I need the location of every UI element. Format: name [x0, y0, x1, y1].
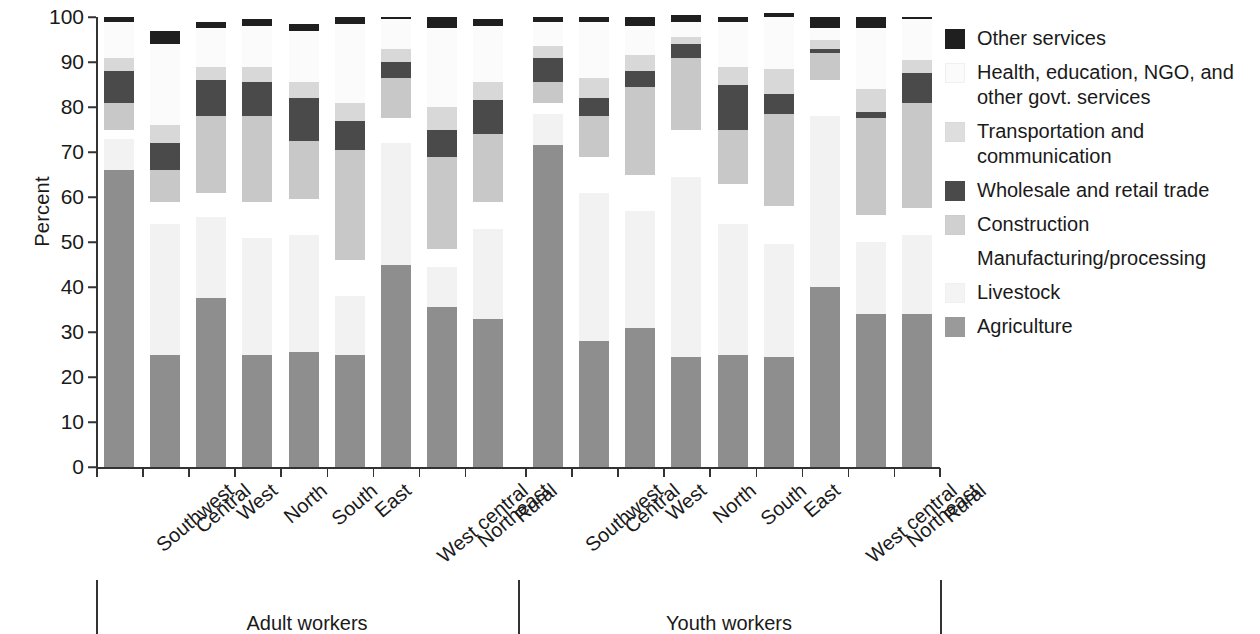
x-axis-tick-mark	[373, 468, 375, 477]
y-axis-tick-label: 0	[18, 455, 84, 479]
bar-segment	[104, 58, 134, 72]
stacked-bar	[579, 17, 609, 467]
legend-item: Agriculture	[945, 314, 1255, 339]
bar-segment	[335, 103, 365, 121]
x-axis-tick-mark	[234, 468, 236, 477]
group-label: Adult workers	[246, 612, 367, 634]
bar-segment	[196, 217, 226, 298]
y-axis-tick-label: 40	[18, 275, 84, 299]
bar-segment	[473, 229, 503, 319]
x-axis-tick-mark	[525, 468, 527, 477]
bar-segment	[104, 170, 134, 467]
bar-segment	[381, 17, 411, 19]
bar-segment	[335, 296, 365, 355]
x-axis-tick-mark	[709, 468, 711, 477]
stacked-bar	[104, 17, 134, 467]
bar-segment	[427, 249, 457, 267]
bar-segment	[473, 134, 503, 202]
group-label: Youth workers	[666, 612, 792, 634]
bar-segment	[718, 224, 748, 355]
bar-segment	[764, 17, 794, 69]
bar-segment	[104, 139, 134, 171]
bar-segment	[671, 44, 701, 58]
stacked-bar	[381, 17, 411, 467]
bar-segment	[902, 19, 932, 60]
bar-segment	[533, 114, 563, 146]
y-axis-tick-mark	[88, 376, 96, 378]
bar-segment	[625, 328, 655, 468]
x-axis-tick-mark	[465, 468, 467, 477]
bar-segment	[242, 116, 272, 202]
bar-segment	[579, 157, 609, 193]
bar-segment	[289, 352, 319, 467]
stacked-bar	[196, 17, 226, 467]
legend-swatch-icon	[945, 122, 965, 142]
x-axis-tick-label: East	[370, 479, 415, 522]
bar-segment	[196, 80, 226, 116]
bar-segment	[718, 67, 748, 85]
bar-segment	[473, 202, 503, 229]
y-axis-tick-label: 80	[18, 95, 84, 119]
bar-segment	[810, 53, 840, 80]
bar-segment	[764, 357, 794, 467]
stacked-bar	[718, 17, 748, 467]
bar-segment	[104, 17, 134, 22]
bar-segment	[902, 314, 932, 467]
bar-segment	[533, 22, 563, 47]
stacked-bar	[902, 17, 932, 467]
y-axis-tick-label: 10	[18, 410, 84, 434]
bar-segment	[718, 355, 748, 468]
stacked-bar	[427, 17, 457, 467]
legend-label: Wholesale and retail trade	[977, 178, 1209, 203]
bar-segment	[150, 143, 180, 170]
y-axis-tick-mark	[88, 241, 96, 243]
legend-swatch-icon	[945, 215, 965, 235]
bar-segment	[579, 193, 609, 342]
legend-item: Wholesale and retail trade	[945, 178, 1255, 203]
bar-segment	[196, 67, 226, 81]
bar-segment	[473, 82, 503, 100]
bar-segment	[764, 206, 794, 244]
bar-segment	[473, 26, 503, 82]
y-axis-tick-mark	[88, 151, 96, 153]
bar-segment	[150, 355, 180, 468]
bar-segment	[289, 141, 319, 200]
bar-segment	[196, 193, 226, 218]
legend-item: Livestock	[945, 280, 1255, 305]
bar-segment	[427, 28, 457, 107]
bar-segment	[335, 121, 365, 150]
bar-segment	[150, 31, 180, 45]
stacked-bar	[533, 17, 563, 467]
bar-segment	[335, 150, 365, 260]
stacked-bar	[764, 17, 794, 467]
y-axis-tick-label: 100	[18, 5, 84, 29]
x-axis-tick-mark	[96, 468, 98, 477]
bar-segment	[533, 46, 563, 57]
legend-label: Construction	[977, 212, 1089, 237]
x-axis-tick-mark	[142, 468, 144, 477]
bar-segment	[902, 103, 932, 209]
bar-segment	[150, 44, 180, 125]
bar-segment	[242, 26, 272, 67]
bar-segment	[196, 298, 226, 467]
bar-segment	[533, 17, 563, 22]
y-axis-tick-mark	[88, 466, 96, 468]
bar-segment	[150, 202, 180, 225]
bar-segment	[150, 224, 180, 355]
legend-swatch-icon	[945, 283, 965, 303]
bar-segment	[671, 15, 701, 22]
bar-segment	[764, 94, 794, 114]
bar-segment	[533, 145, 563, 467]
stacked-bar-chart: Percent 0102030405060708090100SouthwestC…	[0, 0, 1260, 634]
bar-segment	[856, 215, 886, 242]
y-axis-tick-mark	[88, 106, 96, 108]
bar-segment	[764, 114, 794, 206]
bar-segment	[381, 49, 411, 63]
y-axis-tick-label: 30	[18, 320, 84, 344]
x-axis-tick-mark	[663, 468, 665, 477]
bar-segment	[902, 208, 932, 235]
bar-segment	[856, 89, 886, 112]
bar-segment	[104, 22, 134, 58]
bar-segment	[150, 170, 180, 202]
bar-segment	[104, 103, 134, 130]
